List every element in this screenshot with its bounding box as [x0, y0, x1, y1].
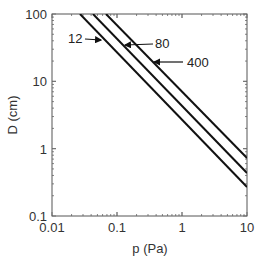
arrow-80: [125, 44, 153, 45]
chart: 100 10 1 0.1 0.01 0.1 1 10 p (Pa) D (cm)…: [0, 0, 262, 261]
y-tick-1: 1: [40, 142, 47, 157]
x-tick-0.1: 0.1: [108, 220, 126, 235]
annotation-400: 400: [187, 55, 209, 70]
x-tick-1: 1: [178, 220, 185, 235]
arrow-12: [85, 39, 101, 40]
x-tick-0.01: 0.01: [39, 220, 64, 235]
y-tick-100: 100: [25, 7, 47, 22]
annotation-12: 12: [68, 31, 82, 46]
series-80-line: [93, 14, 247, 173]
x-axis-label: p (Pa): [132, 241, 167, 256]
y-axis-label: D (cm): [5, 96, 20, 135]
x-tick-10: 10: [240, 220, 254, 235]
y-tick-10: 10: [33, 74, 47, 89]
annotation-80: 80: [155, 36, 169, 51]
series-400-line: [106, 14, 247, 158]
